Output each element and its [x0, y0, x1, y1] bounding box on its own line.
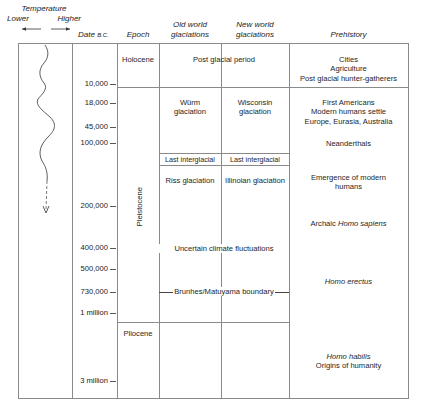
table-top-border [18, 43, 409, 44]
prehistory-emergence: Emergence of modern humans [289, 173, 408, 192]
date-tick-mark [110, 84, 116, 85]
date-tick-label: 500,000 [56, 264, 108, 273]
archaic-prefix: Archaic [311, 219, 338, 228]
date-tick-mark [110, 313, 116, 314]
date-tick-mark [110, 127, 116, 128]
old-world-header: Old world glaciations [159, 20, 221, 39]
prehistory-header: Prehistory [289, 30, 408, 40]
temperature-header: Temperature Lower Higher [4, 4, 84, 23]
date-tick-label: 10,000 [56, 79, 108, 88]
date-tick-mark [110, 206, 116, 207]
wurm-line2: glaciation [159, 107, 221, 116]
date-tick-label: 200,000 [56, 201, 108, 210]
old-world-last-interglacial: Last interglacial [159, 155, 221, 164]
epoch-pleistocene: Pleistocene [135, 177, 144, 237]
emergence-line2: humans [289, 182, 408, 191]
date-tick-label: 18,000 [56, 98, 108, 107]
illinoian-glaciation: Illinoian glaciation [221, 176, 289, 185]
higher-arrow-icon [50, 26, 72, 32]
date-tick-label: 45,000 [56, 122, 108, 131]
wurm-line1: Würm [159, 98, 221, 107]
epoch-old-divider [159, 43, 160, 399]
temp-date-divider [72, 43, 73, 399]
date-epoch-divider [117, 43, 118, 399]
riss-glaciation: Riss glaciation [159, 176, 221, 185]
holocene-pleistocene-divider [117, 87, 409, 88]
uncertain-text: Uncertain climate fluctuations [174, 244, 273, 253]
old-world-header-line1: Old world [159, 20, 221, 30]
date-tick-label: 3 million [56, 376, 108, 385]
date-header-label: Date [78, 30, 95, 39]
date-tick-mark [110, 381, 116, 382]
wisconsin-line1: Wisconsin [221, 98, 289, 107]
old-new-divider [221, 43, 222, 399]
post-glacial-period: Post glacial period [159, 55, 289, 64]
homo-habilis-text: Homo habilis [289, 352, 408, 361]
archaic-homo-sapiens: Homo sapiens [338, 219, 387, 228]
first-americans-text: First Americans [289, 98, 408, 107]
prehistory-holocene: Cities Agriculture Post glacial hunter-g… [289, 55, 408, 83]
temperature-label: Temperature [4, 4, 84, 14]
lower-label: Lower [7, 14, 29, 24]
epoch-header: Epoch [117, 30, 159, 40]
epoch-pliocene: Pliocene [117, 329, 159, 338]
date-tick-mark [110, 292, 116, 293]
uncertain-climate-fluctuations: Uncertain climate fluctuations [159, 244, 289, 253]
brunhes-left-line [159, 292, 173, 293]
origins-text: Origins of humanity [289, 361, 408, 370]
new-world-header: New world glaciations [221, 20, 289, 39]
prehistory-archaic: Archaic Homo sapiens [289, 219, 408, 228]
agriculture-text: Agriculture [289, 64, 408, 73]
last-interglacial-top [159, 153, 289, 154]
prehistory-homo-erectus: Homo erectus [289, 277, 408, 286]
europe-text: Europe, Eurasia, Australia [289, 117, 408, 126]
modern-settle-text: Modern humans settle [289, 107, 408, 116]
new-world-header-line1: New world [221, 20, 289, 30]
post-glacial-hg-text: Post glacial hunter-gatherers [289, 74, 408, 83]
epoch-holocene: Holocene [117, 55, 159, 64]
date-tick-mark [110, 103, 116, 104]
emergence-line1: Emergence of modern [289, 173, 408, 182]
new-world-last-interglacial: Last interglacial [221, 155, 289, 164]
prehistory-habilis: Homo habilis Origins of humanity [289, 352, 408, 371]
prehistory-first-americans: First Americans Modern humans settle Eur… [289, 98, 408, 126]
higher-label: Higher [57, 14, 81, 24]
wisconsin-glaciation: Wisconsin glaciation [221, 98, 289, 117]
date-tick-label: 1 million [56, 308, 108, 317]
prehistory-neanderthals: Neanderthals [289, 139, 408, 148]
wisconsin-line2: glaciation [221, 107, 289, 116]
table-bottom-border [18, 398, 409, 399]
wurm-glaciation: Würm glaciation [159, 98, 221, 117]
date-tick-label: 400,000 [56, 243, 108, 252]
date-tick-mark [110, 143, 116, 144]
table-right-border [408, 43, 409, 399]
date-tick-label: 730,000 [56, 287, 108, 296]
date-tick-label: 100,000 [56, 138, 108, 147]
brunhes-right-line [275, 292, 289, 293]
date-header: Date B.C. [78, 30, 118, 41]
cities-text: Cities [289, 55, 408, 64]
lower-arrow-icon [20, 26, 42, 32]
pleistocene-pliocene-divider [117, 322, 289, 323]
last-interglacial-bottom [159, 165, 289, 166]
brunhes-matuyama-boundary: Brunhes/Matuyama boundary [173, 287, 275, 296]
old-world-header-line2: glaciations [159, 30, 221, 40]
new-world-header-line2: glaciations [221, 30, 289, 40]
date-tick-mark [110, 269, 116, 270]
date-tick-mark [110, 248, 116, 249]
date-header-suffix: B.C. [97, 32, 109, 38]
